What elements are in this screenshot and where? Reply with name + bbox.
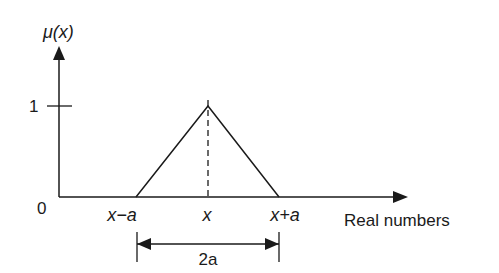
y-axis-label: μ(x) bbox=[42, 22, 74, 42]
x-axis-arrow-icon bbox=[393, 191, 408, 203]
point-labels: x−a x x+a bbox=[106, 205, 300, 225]
x-axis-label: Real numbers bbox=[344, 211, 450, 230]
label-x-minus-a: x−a bbox=[106, 205, 137, 225]
membership-function-diagram: 1 μ(x) 0 Real numbers x−a x x+a 2a bbox=[0, 0, 499, 273]
label-x: x bbox=[202, 205, 213, 225]
y-tick-label-1: 1 bbox=[29, 97, 38, 116]
width-label: 2a bbox=[199, 250, 218, 269]
y-axis: 1 μ(x) bbox=[29, 22, 74, 197]
triangle-membership-curve bbox=[136, 100, 279, 197]
y-axis-arrow-icon bbox=[53, 46, 65, 60]
label-x-plus-a: x+a bbox=[269, 205, 300, 225]
x-axis: 0 Real numbers bbox=[37, 191, 450, 230]
origin-label: 0 bbox=[37, 199, 46, 218]
width-dimension: 2a bbox=[137, 232, 279, 269]
